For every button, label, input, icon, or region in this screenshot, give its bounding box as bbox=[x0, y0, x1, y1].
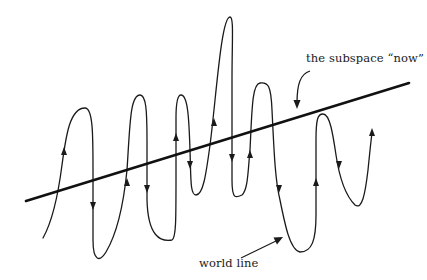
arrow-up-icon bbox=[369, 128, 375, 136]
arrow-down-icon bbox=[336, 161, 342, 169]
arrow-up-icon bbox=[247, 150, 253, 158]
arrow-down-icon bbox=[144, 185, 150, 193]
arrow-up-icon bbox=[313, 178, 319, 186]
world-pointer-arrowhead-icon bbox=[274, 237, 284, 245]
arrow-down-icon bbox=[229, 154, 235, 162]
now-pointer-arrowhead-icon bbox=[294, 100, 301, 109]
arrow-down-icon bbox=[90, 202, 96, 210]
arrow-up-icon bbox=[124, 178, 130, 186]
arrow-up-icon bbox=[211, 118, 217, 126]
world-line-label: world line bbox=[199, 256, 259, 270]
now-line bbox=[26, 83, 409, 201]
arrow-down-icon bbox=[276, 185, 282, 193]
world-line-arrows bbox=[61, 118, 375, 210]
now-pointer-arrow bbox=[297, 71, 310, 103]
subspace-now-label: the subspace “now” bbox=[306, 51, 424, 65]
arrow-up-icon bbox=[61, 147, 67, 155]
arrow-up-icon bbox=[173, 133, 179, 141]
world-line-diagram bbox=[0, 0, 427, 280]
arrow-down-icon bbox=[187, 161, 193, 169]
